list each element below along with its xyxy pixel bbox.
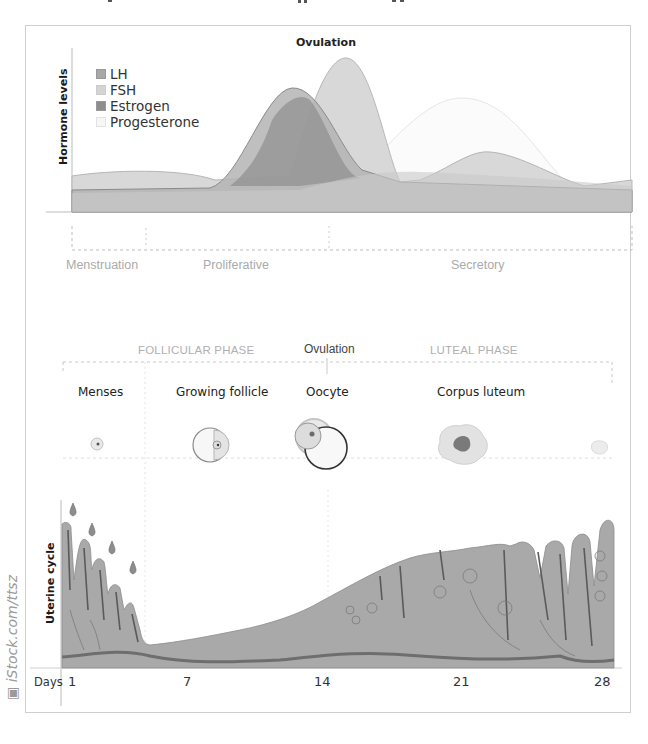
legend-label: LH [110, 66, 128, 82]
phase-proliferative: Proliferative [203, 258, 269, 272]
fsh-swatch-icon [96, 85, 106, 95]
watermark-text: iStock.com/ttsz [4, 575, 20, 682]
day-tick-28: 28 [594, 674, 611, 689]
legend-label: Progesterone [110, 114, 199, 130]
day-tick-1: 1 [68, 674, 76, 689]
phase-secretory: Secretory [451, 258, 505, 272]
estrogen-swatch-icon [96, 101, 106, 111]
days-label: Days [34, 675, 63, 689]
stage-growing-follicle: Growing follicle [176, 385, 268, 399]
legend-item-fsh: FSH [96, 82, 199, 98]
lh-swatch-icon [96, 69, 106, 79]
progesterone-swatch-icon [96, 117, 106, 127]
camera-icon: ▣ [4, 687, 20, 700]
legend-label: FSH [110, 82, 136, 98]
watermark: ▣ iStock.com/ttsz [4, 575, 20, 700]
hormone-y-label: Hormone levels [57, 68, 70, 165]
hormone-legend: LH FSH Estrogen Progesterone [96, 66, 199, 130]
phase-menstruation: Menstruation [66, 258, 138, 272]
stage-oocyte: Oocyte [306, 385, 349, 399]
ovarian-cycle: FOLLICULAR PHASE Ovulation LUTEAL PHASE … [0, 330, 648, 490]
day-tick-7: 7 [183, 674, 191, 689]
legend-label: Estrogen [110, 98, 170, 114]
legend-item-estrogen: Estrogen [96, 98, 199, 114]
legend-item-lh: LH [96, 66, 199, 82]
luteal-phase-label: LUTEAL PHASE [430, 344, 518, 356]
corpus-albicans-icon [591, 441, 607, 454]
stage-corpus-luteum: Corpus luteum [437, 385, 525, 399]
legend-item-progesterone: Progesterone [96, 114, 199, 130]
day-tick-21: 21 [453, 674, 470, 689]
hormone-chart: Hormone levels Ovulation LH FSH Estrogen… [0, 0, 648, 300]
ovulation-title: Ovulation [296, 36, 356, 49]
uterine-cycle: Uterine cycle Days 1 7 14 21 28 [0, 490, 648, 720]
uterine-y-label: Uterine cycle [44, 543, 57, 624]
ovulation-label: Ovulation [304, 342, 355, 356]
stage-menses: Menses [78, 385, 123, 399]
day-tick-14: 14 [314, 674, 331, 689]
follicular-phase-label: FOLLICULAR PHASE [138, 344, 254, 356]
